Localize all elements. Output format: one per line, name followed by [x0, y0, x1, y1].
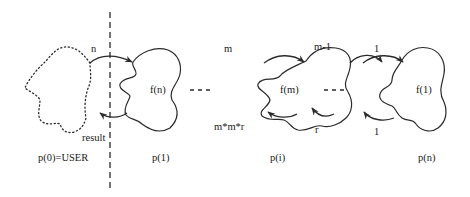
function-label-f1: f(1) — [416, 84, 432, 96]
process-label-p0: p(0)=USER — [38, 152, 88, 164]
arrow-label-mmr: m*m*r — [214, 121, 245, 132]
arrow-label-r: r — [315, 124, 319, 135]
arrow-r — [312, 108, 334, 116]
process-blob-pi — [258, 48, 352, 131]
arrow-1-in — [363, 56, 403, 63]
arrow-1-out — [364, 112, 394, 120]
arrow-label-m: m — [224, 43, 232, 54]
arrow-m — [264, 56, 304, 63]
user-process-blob — [25, 47, 91, 133]
arrow-result — [100, 113, 127, 117]
arrow-n — [90, 56, 132, 63]
arrow-label-1-out: 1 — [374, 126, 379, 137]
arrow-label-1-in: 1 — [374, 43, 379, 54]
arrow-label-m-minus-1: m-1 — [314, 41, 331, 52]
arrow-label-n: n — [91, 43, 97, 54]
arrow-label-result: result — [82, 132, 105, 143]
process-label-p1: p(1) — [152, 152, 170, 164]
recursion-process-diagram: n result f(n) m f(m) m*m*r m-1 r 1 f(1) … — [0, 0, 470, 197]
process-blob-pn — [380, 48, 446, 131]
function-label-fm: f(m) — [280, 84, 299, 96]
process-label-pn: p(n) — [418, 152, 436, 164]
function-label-fn: f(n) — [150, 84, 166, 96]
process-label-pi: p(i) — [270, 152, 286, 164]
arrow-mmr — [268, 112, 297, 117]
